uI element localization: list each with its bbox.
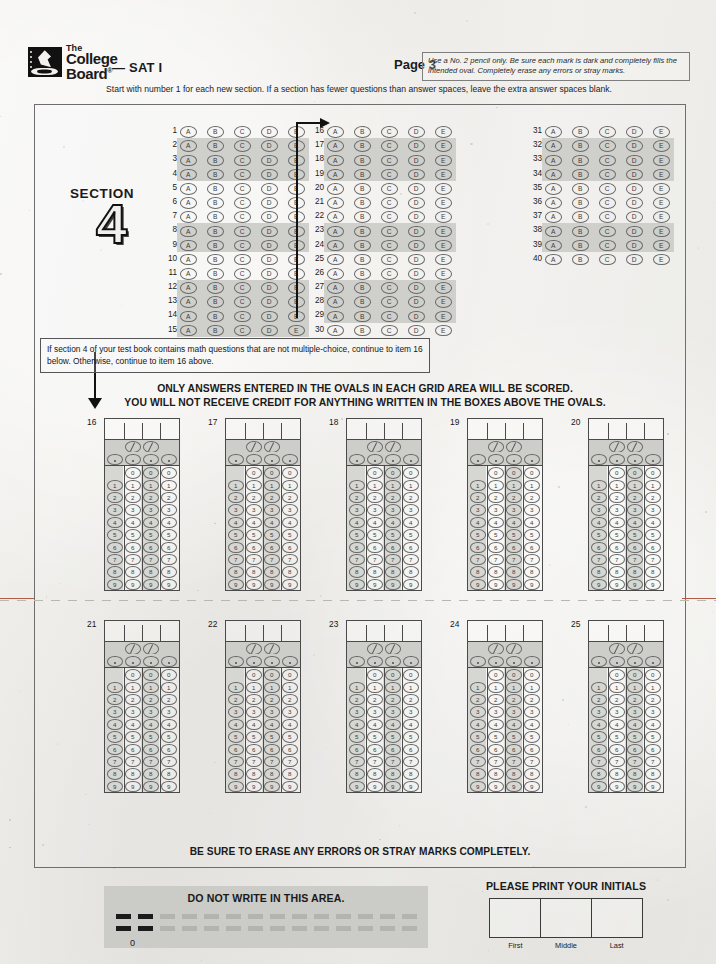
bubble-32-B[interactable]: B: [572, 140, 589, 152]
bubble-21-8-col1[interactable]: 8: [107, 768, 123, 779]
initials-field-first[interactable]: [490, 899, 541, 937]
bubble-21-5-col2[interactable]: 5: [125, 731, 141, 742]
bubble-38-C[interactable]: C: [599, 226, 616, 238]
bubble-24-slash-col3[interactable]: [506, 643, 522, 654]
bubble-20-2-col4[interactable]: 2: [645, 492, 661, 503]
bubble-19-4-col3[interactable]: 4: [506, 517, 522, 528]
bubble-22-E[interactable]: E: [435, 211, 452, 223]
bubble-34-C[interactable]: C: [599, 169, 616, 181]
bubble-2-D[interactable]: D: [261, 140, 278, 152]
bubble-24-3-col3[interactable]: 3: [506, 706, 522, 717]
bubble-20-8-col3[interactable]: 8: [627, 566, 643, 577]
bubble-20-6-col4[interactable]: 6: [645, 542, 661, 553]
bubble-19-slash-col3[interactable]: [506, 441, 522, 452]
bubble-16-8-col3[interactable]: 8: [143, 566, 159, 577]
bubble-23-decimal-col3[interactable]: [385, 656, 401, 667]
bubble-22-0-col4[interactable]: 0: [282, 669, 298, 680]
bubble-21-1-col2[interactable]: 1: [125, 682, 141, 693]
bubble-37-D[interactable]: D: [626, 211, 643, 223]
bubble-22-8-col1[interactable]: 8: [228, 768, 244, 779]
bubble-16-1-col1[interactable]: 1: [107, 480, 123, 491]
bubble-32-A[interactable]: A: [545, 140, 562, 152]
bubble-19-8-col4[interactable]: 8: [524, 566, 540, 577]
bubble-16-decimal-col4[interactable]: [161, 454, 177, 465]
bubble-23-C[interactable]: C: [381, 226, 398, 238]
bubble-13-B[interactable]: B: [207, 296, 224, 308]
bubble-21-C[interactable]: C: [381, 197, 398, 209]
bubble-25-6-col3[interactable]: 6: [627, 744, 643, 755]
bubble-21-A[interactable]: A: [327, 197, 344, 209]
bubble-21-0-col2[interactable]: 0: [125, 669, 141, 680]
bubble-25-3-col1[interactable]: 3: [591, 706, 607, 717]
bubble-20-B[interactable]: B: [354, 183, 371, 195]
bubble-19-2-col3[interactable]: 2: [506, 492, 522, 503]
bubble-18-0-col3[interactable]: 0: [385, 467, 401, 478]
bubble-25-D[interactable]: D: [408, 254, 425, 266]
bubble-19-9-col4[interactable]: 9: [524, 579, 540, 590]
bubble-18-slash-col3[interactable]: [385, 441, 401, 452]
bubble-29-A[interactable]: A: [327, 311, 344, 323]
bubble-18-slash-col2[interactable]: [367, 441, 383, 452]
bubble-4-A[interactable]: A: [180, 169, 197, 181]
bubble-24-4-col1[interactable]: 4: [470, 719, 486, 730]
bubble-20-9-col3[interactable]: 9: [627, 579, 643, 590]
bubble-23-4-col2[interactable]: 4: [367, 719, 383, 730]
bubble-18-3-col2[interactable]: 3: [367, 504, 383, 515]
bubble-18-3-col1[interactable]: 3: [349, 504, 365, 515]
bubble-33-E[interactable]: E: [653, 155, 670, 167]
bubble-22-3-col3[interactable]: 3: [264, 706, 280, 717]
bubble-22-slash-col3[interactable]: [264, 643, 280, 654]
bubble-26-E[interactable]: E: [435, 268, 452, 280]
bubble-17-4-col3[interactable]: 4: [264, 517, 280, 528]
bubble-17-9-col4[interactable]: 9: [282, 579, 298, 590]
bubble-39-D[interactable]: D: [626, 240, 643, 252]
bubble-25-4-col2[interactable]: 4: [609, 719, 625, 730]
bubble-16-6-col4[interactable]: 6: [161, 542, 177, 553]
bubble-39-A[interactable]: A: [545, 240, 562, 252]
bubble-24-6-col4[interactable]: 6: [524, 744, 540, 755]
bubble-24-9-col1[interactable]: 9: [470, 781, 486, 792]
bubble-24-8-col3[interactable]: 8: [506, 768, 522, 779]
bubble-14-A[interactable]: A: [180, 311, 197, 323]
bubble-23-1-col2[interactable]: 1: [367, 682, 383, 693]
bubble-33-D[interactable]: D: [626, 155, 643, 167]
bubble-21-decimal-col1[interactable]: [107, 656, 123, 667]
bubble-5-A[interactable]: A: [180, 183, 197, 195]
bubble-23-1-col3[interactable]: 1: [385, 682, 401, 693]
bubble-25-7-col3[interactable]: 7: [627, 756, 643, 767]
bubble-37-C[interactable]: C: [599, 211, 616, 223]
bubble-17-decimal-col2[interactable]: [246, 454, 262, 465]
bubble-19-1-col3[interactable]: 1: [506, 480, 522, 491]
bubble-16-2-col4[interactable]: 2: [161, 492, 177, 503]
bubble-23-6-col1[interactable]: 6: [349, 744, 365, 755]
bubble-18-0-col2[interactable]: 0: [367, 467, 383, 478]
bubble-6-B[interactable]: B: [207, 197, 224, 209]
bubble-22-decimal-col4[interactable]: [282, 656, 298, 667]
bubble-32-E[interactable]: E: [653, 140, 670, 152]
bubble-27-E[interactable]: E: [435, 282, 452, 294]
bubble-10-D[interactable]: D: [261, 254, 278, 266]
bubble-18-2-col4[interactable]: 2: [403, 492, 419, 503]
bubble-18-9-col3[interactable]: 9: [385, 579, 401, 590]
bubble-15-B[interactable]: B: [207, 325, 224, 337]
bubble-23-A[interactable]: A: [327, 226, 344, 238]
bubble-24-5-col3[interactable]: 5: [506, 731, 522, 742]
bubble-17-4-col4[interactable]: 4: [282, 517, 298, 528]
bubble-23-3-col4[interactable]: 3: [403, 706, 419, 717]
bubble-39-E[interactable]: E: [653, 240, 670, 252]
bubble-28-A[interactable]: A: [327, 296, 344, 308]
grid-in-write-boxes-22[interactable]: [226, 621, 300, 642]
bubble-25-2-col2[interactable]: 2: [609, 694, 625, 705]
bubble-1-C[interactable]: C: [234, 126, 251, 138]
grid-in-write-boxes-18[interactable]: [347, 419, 421, 440]
bubble-22-1-col4[interactable]: 1: [282, 682, 298, 693]
bubble-17-0-col3[interactable]: 0: [264, 467, 280, 478]
bubble-22-decimal-col2[interactable]: [246, 656, 262, 667]
bubble-8-B[interactable]: B: [207, 226, 224, 238]
bubble-20-5-col3[interactable]: 5: [627, 529, 643, 540]
bubble-24-4-col3[interactable]: 4: [506, 719, 522, 730]
bubble-19-7-col1[interactable]: 7: [470, 554, 486, 565]
bubble-21-8-col2[interactable]: 8: [125, 768, 141, 779]
bubble-24-1-col1[interactable]: 1: [470, 682, 486, 693]
bubble-16-decimal-col1[interactable]: [107, 454, 123, 465]
